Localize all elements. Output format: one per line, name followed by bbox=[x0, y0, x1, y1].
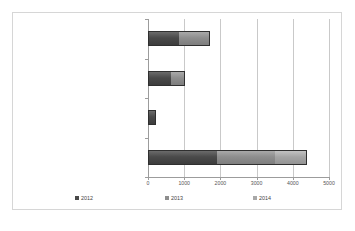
bar-segment[interactable] bbox=[179, 31, 210, 46]
x-tick-label: 4000 bbox=[287, 180, 299, 186]
x-tick-label: 2000 bbox=[215, 180, 227, 186]
legend-swatch-icon bbox=[165, 196, 169, 200]
plot-area: 0 1000 2000 3000 4000 5000 Monitoring sy… bbox=[148, 19, 329, 185]
legend-item-2014[interactable]: 2014 bbox=[253, 195, 271, 201]
x-tick-label: 3000 bbox=[251, 180, 263, 186]
legend-swatch-icon bbox=[253, 196, 257, 200]
x-tick-label: 5000 bbox=[323, 180, 335, 186]
legend-label: 2012 bbox=[81, 195, 93, 201]
legend-item-2013[interactable]: 2013 bbox=[165, 195, 183, 201]
x-tick-label: 1000 bbox=[178, 180, 190, 186]
legend-item-2012[interactable]: 2012 bbox=[75, 195, 93, 201]
legend-swatch-icon bbox=[75, 196, 79, 200]
chart-legend: 2012 2013 2014 bbox=[13, 195, 343, 207]
bar-segment[interactable] bbox=[148, 31, 179, 46]
bar-segment[interactable] bbox=[148, 150, 217, 165]
legend-label: 2014 bbox=[259, 195, 271, 201]
bar-segment[interactable] bbox=[275, 150, 308, 165]
chart-frame: 0 1000 2000 3000 4000 5000 Monitoring sy… bbox=[12, 12, 342, 210]
x-axis bbox=[148, 177, 329, 178]
y-tick bbox=[145, 98, 148, 99]
bar-segment[interactable] bbox=[148, 71, 171, 86]
y-tick bbox=[145, 138, 148, 139]
y-tick bbox=[145, 59, 148, 60]
gridline-5000 bbox=[329, 19, 330, 177]
bar-segment[interactable] bbox=[171, 71, 185, 86]
bar-segment[interactable] bbox=[217, 150, 275, 165]
y-tick bbox=[145, 19, 148, 20]
legend-label: 2013 bbox=[171, 195, 183, 201]
bar-segment[interactable] bbox=[148, 110, 156, 125]
x-tick-label: 0 bbox=[147, 180, 150, 186]
